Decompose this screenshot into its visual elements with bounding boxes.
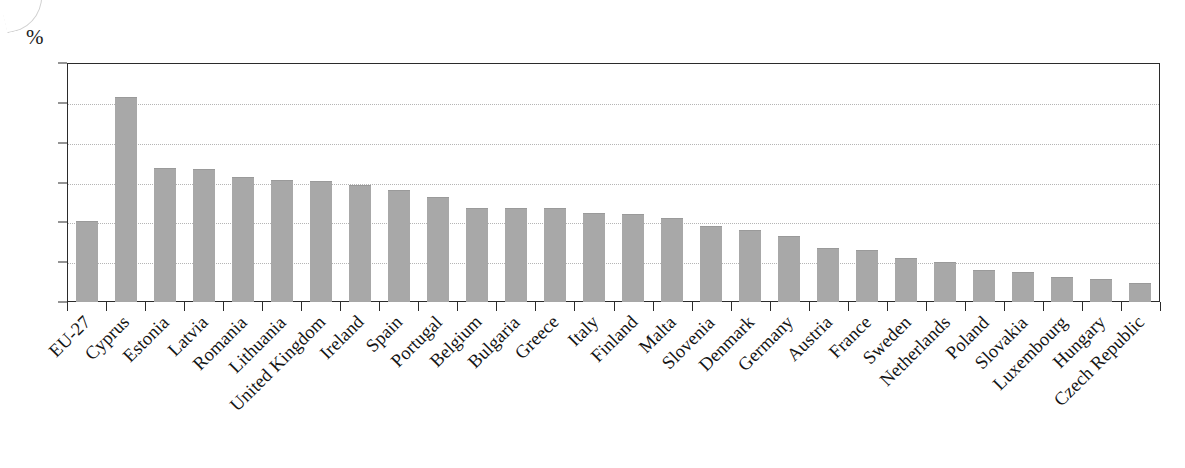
x-axis-tick-mark bbox=[1004, 302, 1005, 311]
bar-slot bbox=[457, 63, 496, 302]
bar[interactable] bbox=[271, 180, 293, 302]
bar[interactable] bbox=[739, 230, 761, 302]
bar-slot bbox=[223, 63, 262, 302]
x-axis-tick-label: Greece bbox=[511, 312, 563, 364]
bar[interactable] bbox=[388, 190, 410, 302]
bar[interactable] bbox=[1129, 283, 1151, 302]
bar-slot bbox=[1121, 63, 1160, 302]
bar-slot bbox=[614, 63, 653, 302]
x-axis-tick-mark bbox=[535, 302, 536, 311]
bar[interactable] bbox=[622, 214, 644, 302]
x-axis-tick-mark bbox=[457, 302, 458, 311]
bar[interactable] bbox=[505, 208, 527, 302]
bar-slot bbox=[301, 63, 340, 302]
bar[interactable] bbox=[544, 208, 566, 302]
bar-slot bbox=[692, 63, 731, 302]
bar[interactable] bbox=[427, 197, 449, 302]
bar-slot bbox=[1004, 63, 1043, 302]
bar-slot bbox=[496, 63, 535, 302]
y-axis-tick-mark bbox=[58, 182, 67, 183]
x-axis-tick-mark bbox=[301, 302, 302, 311]
bar-slot bbox=[535, 63, 574, 302]
bar[interactable] bbox=[1012, 272, 1034, 302]
bar[interactable] bbox=[934, 262, 956, 302]
x-axis-tick-mark bbox=[692, 302, 693, 311]
bar-slot bbox=[184, 63, 223, 302]
bar-slot bbox=[379, 63, 418, 302]
x-axis-tick-mark bbox=[223, 302, 224, 311]
bar[interactable] bbox=[817, 248, 839, 302]
bar[interactable] bbox=[1051, 277, 1073, 302]
x-axis-tick-mark bbox=[574, 302, 575, 311]
x-axis-tick-mark bbox=[379, 302, 380, 311]
bar-slot bbox=[965, 63, 1004, 302]
x-axis-tick-mark bbox=[731, 302, 732, 311]
bar[interactable] bbox=[661, 218, 683, 302]
bar[interactable] bbox=[973, 270, 995, 302]
y-axis-tick-mark bbox=[58, 302, 67, 303]
x-axis-tick-mark bbox=[848, 302, 849, 311]
bar[interactable] bbox=[115, 97, 137, 302]
x-axis-tick-mark bbox=[614, 302, 615, 311]
x-axis-tick-mark bbox=[106, 302, 107, 311]
bar-slot bbox=[887, 63, 926, 302]
x-axis-tick-mark bbox=[262, 302, 263, 311]
bar-slot bbox=[106, 63, 145, 302]
bars-layer bbox=[67, 63, 1160, 302]
bar[interactable] bbox=[349, 185, 371, 302]
bar[interactable] bbox=[700, 226, 722, 302]
x-axis-tick-mark bbox=[496, 302, 497, 311]
bar-slot bbox=[418, 63, 457, 302]
y-axis-tick-mark bbox=[58, 262, 67, 263]
y-axis-tick-mark bbox=[58, 222, 67, 223]
y-axis-tick-mark bbox=[58, 142, 67, 143]
y-axis-tick-mark bbox=[58, 102, 67, 103]
x-axis-tick-mark bbox=[1043, 302, 1044, 311]
bar-slot bbox=[340, 63, 379, 302]
bar[interactable] bbox=[778, 236, 800, 302]
y-axis-unit-label: % bbox=[26, 27, 44, 48]
bar-slot bbox=[809, 63, 848, 302]
bar[interactable] bbox=[895, 258, 917, 302]
bar[interactable] bbox=[466, 208, 488, 302]
bar-slot bbox=[574, 63, 613, 302]
bar-slot bbox=[67, 63, 106, 302]
bar-slot bbox=[145, 63, 184, 302]
x-axis-tick-mark bbox=[418, 302, 419, 311]
bar-slot bbox=[731, 63, 770, 302]
x-axis-tick-mark bbox=[67, 302, 68, 311]
bar-slot bbox=[262, 63, 301, 302]
bar-slot bbox=[653, 63, 692, 302]
bar-slot bbox=[770, 63, 809, 302]
bar[interactable] bbox=[193, 169, 215, 302]
bar-slot bbox=[1043, 63, 1082, 302]
bar[interactable] bbox=[310, 181, 332, 302]
bar-chart: % 0102030405060 EU-27CyprusEstoniaLatvia… bbox=[0, 0, 1185, 468]
x-axis-tick-mark bbox=[145, 302, 146, 311]
x-axis-tick-mark bbox=[184, 302, 185, 311]
x-axis-tick-mark bbox=[340, 302, 341, 311]
x-axis-tick-mark bbox=[965, 302, 966, 311]
y-axis-tick-mark bbox=[58, 63, 67, 64]
x-axis-tick-mark bbox=[653, 302, 654, 311]
bar[interactable] bbox=[856, 250, 878, 302]
bar[interactable] bbox=[76, 221, 98, 302]
bar-slot bbox=[848, 63, 887, 302]
x-axis-tick-mark bbox=[809, 302, 810, 311]
x-axis-tick-mark bbox=[1082, 302, 1083, 311]
bar[interactable] bbox=[232, 177, 254, 302]
x-axis-tick-mark bbox=[926, 302, 927, 311]
bar[interactable] bbox=[1090, 279, 1112, 302]
x-axis-tick-mark bbox=[1121, 302, 1122, 311]
bar-slot bbox=[1082, 63, 1121, 302]
x-axis-tick-mark bbox=[1160, 302, 1161, 311]
bar[interactable] bbox=[154, 168, 176, 302]
bar-slot bbox=[926, 63, 965, 302]
x-axis-tick-mark bbox=[770, 302, 771, 311]
bar[interactable] bbox=[583, 213, 605, 302]
x-axis-tick-mark bbox=[887, 302, 888, 311]
